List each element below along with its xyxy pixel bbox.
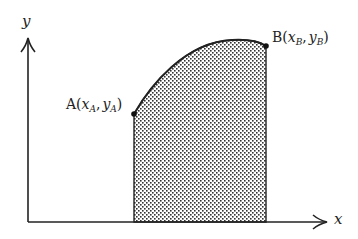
area-under-curve-diagram: y x A(xA,yA) B(xB,yB)	[0, 0, 358, 239]
point-a-label: A(xA,yA)	[65, 96, 122, 114]
y-axis-label: y	[21, 12, 31, 30]
point-b-marker	[263, 43, 269, 49]
point-a-marker	[131, 111, 137, 117]
shaded-region	[134, 40, 266, 222]
point-b-label: B(xB,yB)	[272, 29, 329, 47]
x-axis-label: x	[334, 210, 343, 228]
